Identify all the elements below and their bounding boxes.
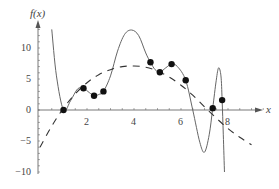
data-point bbox=[157, 69, 163, 75]
data-point bbox=[80, 85, 86, 91]
y-tick-label: 5 bbox=[26, 73, 31, 84]
y-tick-label: 10 bbox=[21, 42, 31, 53]
data-point bbox=[60, 107, 66, 113]
y-axis-label: f(x) bbox=[30, 7, 46, 20]
x-tick-label: 6 bbox=[178, 116, 183, 127]
data-point bbox=[147, 59, 153, 65]
x-axis-arrow-icon bbox=[255, 108, 263, 113]
y-tick-label: −10 bbox=[15, 166, 31, 177]
y-tick-label: 0 bbox=[26, 104, 31, 115]
data-point bbox=[219, 97, 225, 103]
least-squares-curve bbox=[40, 66, 252, 147]
x-tick-label: 8 bbox=[225, 116, 230, 127]
x-tick-labels: 2 4 6 8 bbox=[84, 116, 230, 127]
data-point bbox=[168, 61, 174, 67]
interpolating-curve bbox=[52, 29, 225, 172]
data-point bbox=[210, 105, 216, 111]
y-tick-label: −5 bbox=[20, 135, 31, 146]
x-tick-label: 2 bbox=[84, 116, 89, 127]
chart: f(x) x 2 4 6 8 10 5 0 −5 −10 bbox=[0, 0, 279, 189]
y-tick-labels: 10 5 0 −5 −10 bbox=[15, 42, 31, 177]
minor-ticks bbox=[38, 29, 263, 172]
x-tick-label: 4 bbox=[131, 116, 136, 127]
plot-area bbox=[40, 29, 252, 172]
data-point bbox=[100, 88, 106, 94]
data-point bbox=[91, 93, 97, 99]
x-axis-label: x bbox=[265, 103, 271, 115]
data-point bbox=[183, 77, 189, 83]
axes bbox=[36, 20, 264, 174]
y-axis-arrow-icon bbox=[36, 20, 41, 28]
